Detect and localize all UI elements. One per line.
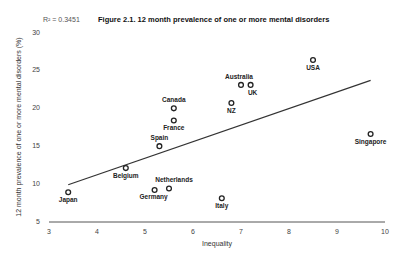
data-point-marker [248, 83, 253, 88]
data-point-marker [66, 190, 71, 195]
scatter-plot: 34567891051015202530JapanBelgiumGermanyN… [0, 0, 410, 261]
data-point-marker [229, 101, 234, 106]
x-tick-label: 7 [239, 228, 243, 235]
x-tick-label: 10 [381, 228, 389, 235]
y-tick-label: 25 [32, 66, 40, 73]
data-point-marker [171, 118, 176, 123]
data-point-marker [171, 106, 176, 111]
data-point-marker [157, 144, 162, 149]
data-point-label: Canada [162, 96, 186, 103]
x-tick-label: 5 [143, 228, 147, 235]
data-point-marker [167, 186, 172, 191]
data-point-marker [152, 188, 157, 193]
y-tick-label: 20 [32, 104, 40, 111]
trend-line [68, 80, 370, 184]
x-tick-label: 9 [335, 228, 339, 235]
data-point-marker [219, 196, 224, 201]
y-tick-label: 15 [32, 142, 40, 149]
x-tick-label: 6 [191, 228, 195, 235]
x-tick-label: 3 [47, 228, 51, 235]
y-tick-label: 10 [32, 180, 40, 187]
data-point-label: USA [306, 64, 320, 71]
data-point-marker [239, 83, 244, 88]
y-tick-label: 5 [36, 218, 40, 225]
data-point-marker [123, 166, 128, 171]
data-point-label: NZ [227, 107, 236, 114]
data-point-marker [368, 132, 373, 137]
data-point-label: Belgium [113, 172, 139, 180]
data-point-marker [311, 58, 316, 63]
data-point-label: Spain [151, 134, 169, 142]
data-point-label: Australia [225, 73, 253, 80]
data-point-label: Netherlands [155, 176, 193, 183]
data-point-label: Singapore [355, 138, 387, 146]
data-point-label: Italy [215, 202, 228, 210]
data-point-label: UK [248, 89, 258, 96]
data-point-label: Germany [140, 193, 169, 201]
x-tick-label: 8 [287, 228, 291, 235]
data-point-label: Japan [59, 196, 78, 204]
x-tick-label: 4 [95, 228, 99, 235]
y-tick-label: 30 [32, 29, 40, 36]
data-point-label: France [163, 124, 185, 131]
